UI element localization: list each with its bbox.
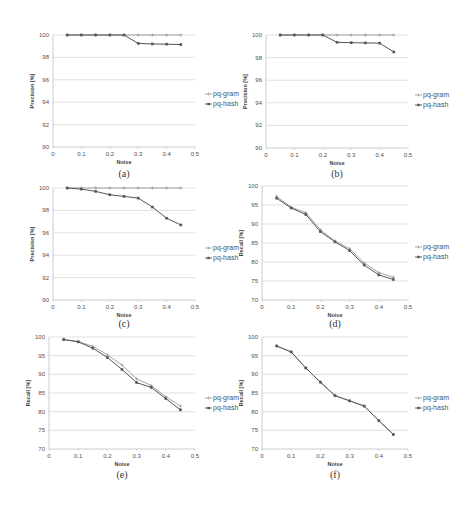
legend-label: pq-gram xyxy=(423,394,449,402)
x-tick-label: 0 xyxy=(260,304,264,310)
legend-label: pq-hash xyxy=(423,253,448,261)
chart-panel-f: 70758085909510000.10.20.30.40.5NoiseReca… xyxy=(238,334,449,481)
data-point xyxy=(94,190,97,193)
x-tick-label: 0.5 xyxy=(404,453,413,459)
series-line-pq-hash xyxy=(277,198,394,279)
data-point xyxy=(348,249,351,252)
y-tick-label: 96 xyxy=(42,77,49,83)
data-point xyxy=(92,347,95,350)
y-tick-label: 94 xyxy=(42,252,49,258)
y-tick-label: 85 xyxy=(38,390,45,396)
data-point xyxy=(305,213,308,216)
x-axis-label: Noise xyxy=(330,160,345,166)
x-tick-label: 0.5 xyxy=(404,152,413,158)
y-tick-label: 70 xyxy=(251,297,258,303)
x-tick-label: 0.1 xyxy=(77,304,86,310)
legend-label: pq-gram xyxy=(213,244,239,252)
y-tick-label: 96 xyxy=(255,77,262,83)
legend-label: pq-gram xyxy=(423,91,449,99)
data-point xyxy=(80,188,83,191)
data-point xyxy=(94,34,97,37)
legend-label: pq-gram xyxy=(213,394,239,402)
x-tick-label: 0.3 xyxy=(345,453,354,459)
data-point xyxy=(378,42,381,45)
y-tick-label: 100 xyxy=(35,334,46,340)
panel-caption: (a) xyxy=(118,168,129,180)
x-tick-label: 0.4 xyxy=(162,304,171,310)
data-point xyxy=(293,34,296,37)
panel-caption: (d) xyxy=(329,318,341,330)
x-tick-label: 0.3 xyxy=(347,152,356,158)
legend-label: pq-hash xyxy=(423,404,448,412)
data-point xyxy=(363,264,366,267)
y-axis-label: Recall [%] xyxy=(238,380,244,406)
y-tick-label: 100 xyxy=(39,185,50,191)
y-tick-label: 70 xyxy=(251,446,258,452)
data-point xyxy=(109,193,112,196)
y-tick-label: 96 xyxy=(42,230,49,236)
x-tick-label: 0.4 xyxy=(162,151,171,157)
data-point xyxy=(378,419,381,422)
data-point xyxy=(363,405,366,408)
data-point xyxy=(290,351,293,354)
data-point xyxy=(180,43,183,46)
data-point xyxy=(137,42,140,45)
legend-label: pq-gram xyxy=(423,243,449,251)
data-point xyxy=(279,34,282,37)
chart-panel-b: 909294969810000.10.20.30.40.5NoisePrecis… xyxy=(242,32,449,180)
data-point xyxy=(165,43,168,46)
data-point xyxy=(392,278,395,281)
data-point xyxy=(151,43,154,46)
y-tick-label: 94 xyxy=(42,99,49,105)
x-tick-label: 0.3 xyxy=(134,304,143,310)
x-tick-label: 0.4 xyxy=(375,453,384,459)
chart-panel-a: 909294969810000.10.20.30.40.5NoisePrecis… xyxy=(29,32,239,180)
y-tick-label: 95 xyxy=(38,353,45,359)
data-point xyxy=(151,206,154,209)
x-tick-label: 0.1 xyxy=(77,151,86,157)
x-tick-label: 0 xyxy=(51,304,55,310)
data-point xyxy=(62,338,65,341)
y-tick-label: 92 xyxy=(42,122,49,128)
data-point xyxy=(180,224,183,227)
x-tick-label: 0 xyxy=(51,151,55,157)
data-point xyxy=(378,274,381,277)
data-point xyxy=(121,368,124,371)
data-point xyxy=(165,217,168,220)
y-tick-label: 80 xyxy=(251,259,258,265)
y-tick-label: 98 xyxy=(255,55,262,61)
x-tick-label: 0 xyxy=(47,453,51,459)
y-tick-label: 90 xyxy=(251,371,258,377)
y-tick-label: 90 xyxy=(38,371,45,377)
x-tick-label: 0.4 xyxy=(375,304,384,310)
data-point xyxy=(307,34,310,37)
x-tick-label: 0.3 xyxy=(132,453,141,459)
chart-panel-c: 909294969810000.10.20.30.40.5NoisePrecis… xyxy=(29,185,239,330)
data-point xyxy=(334,394,337,397)
y-tick-label: 92 xyxy=(42,275,49,281)
data-point xyxy=(150,386,153,389)
y-tick-label: 90 xyxy=(255,145,262,151)
y-tick-label: 94 xyxy=(255,100,262,106)
data-point xyxy=(135,381,138,384)
data-point xyxy=(80,34,83,37)
data-point xyxy=(393,51,396,54)
x-tick-label: 0.2 xyxy=(106,151,115,157)
chart-panel-d: 70758085909510000.10.20.30.40.5NoiseReca… xyxy=(238,183,449,330)
x-tick-label: 0.1 xyxy=(287,453,296,459)
chart-panel-e: 70758085909510000.10.20.30.40.5NoiseReca… xyxy=(25,334,239,481)
data-point xyxy=(290,207,293,210)
data-point xyxy=(123,195,126,198)
y-tick-label: 100 xyxy=(252,32,263,38)
legend-label: pq-hash xyxy=(213,404,238,412)
x-tick-label: 0.5 xyxy=(404,304,413,310)
x-tick-label: 0.5 xyxy=(191,453,200,459)
x-tick-label: 0.1 xyxy=(74,453,83,459)
y-tick-label: 98 xyxy=(42,207,49,213)
x-tick-label: 0.3 xyxy=(134,151,143,157)
data-point xyxy=(123,34,126,37)
y-tick-label: 100 xyxy=(248,183,259,189)
y-tick-label: 92 xyxy=(255,122,262,128)
data-point xyxy=(350,41,353,44)
series-line-pq-hash xyxy=(67,188,181,225)
